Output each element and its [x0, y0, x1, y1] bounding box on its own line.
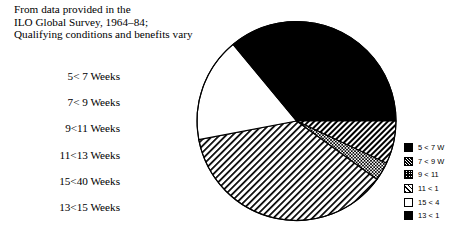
legend-swatch-icon-5 [404, 198, 413, 207]
pie-chart-svg [183, 8, 413, 236]
legend-label-2: 7 < 9 W [418, 157, 444, 166]
legend-swatch-icon-3 [404, 170, 413, 179]
legend-item-2[interactable]: 7 < 9 W [404, 155, 455, 169]
legend-swatch-icon-1 [404, 143, 413, 152]
category-label-1: 5< 7 Weeks [0, 63, 158, 89]
pie-slice[interactable] [297, 22, 397, 122]
legend-label-6: 13 < 1 [418, 211, 439, 220]
legend: 5 < 7 W 7 < 9 W 9 < 11 11 < 1 15 < 4 13 … [404, 141, 455, 223]
legend-label-4: 11 < 1 [418, 184, 439, 193]
legend-swatch-icon-2 [404, 157, 413, 166]
legend-item-6[interactable]: 13 < 1 [404, 209, 455, 223]
pie-chart [183, 8, 413, 236]
legend-swatch-icon-6 [404, 211, 413, 220]
category-label-5: 15<40 Weeks [0, 168, 158, 194]
legend-item-4[interactable]: 11 < 1 [404, 182, 455, 196]
legend-label-1: 5 < 7 W [418, 143, 444, 152]
legend-item-5[interactable]: 15 < 4 [404, 195, 455, 209]
legend-item-1[interactable]: 5 < 7 W [404, 141, 455, 155]
legend-label-3: 9 < 11 [418, 170, 439, 179]
legend-label-5: 15 < 4 [418, 198, 439, 207]
chart-canvas: From data provided in the ILO Global Sur… [0, 0, 455, 243]
legend-swatch-icon-4 [404, 184, 413, 193]
pie-slice-group [197, 22, 396, 221]
category-label-4: 11<13 Weeks [0, 142, 158, 168]
category-label-3: 9<11 Weeks [0, 115, 158, 141]
legend-item-3[interactable]: 9 < 11 [404, 168, 455, 182]
category-label-2: 7< 9 Weeks [0, 89, 158, 115]
category-label-6: 13<15 Weeks [0, 194, 158, 220]
category-label-list: 5< 7 Weeks 7< 9 Weeks 9<11 Weeks 11<13 W… [0, 63, 158, 220]
